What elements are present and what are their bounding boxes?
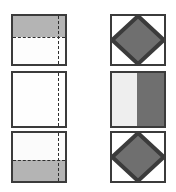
- diamond-shape: [110, 131, 166, 183]
- vertical-fold-line: [58, 16, 59, 64]
- right-half: [137, 71, 166, 128]
- option-2-vertical-split-panel[interactable]: [110, 71, 166, 128]
- fold-step-2-panel: [11, 71, 67, 128]
- option-1-diamond-panel[interactable]: [110, 14, 166, 66]
- folding-diagram-figure: [0, 0, 176, 192]
- vertical-fold-line: [58, 133, 59, 181]
- left-half: [110, 71, 137, 128]
- option-3-diamond-panel[interactable]: [110, 131, 166, 183]
- diamond-shape: [110, 14, 166, 66]
- fold-step-1-panel: [11, 14, 67, 66]
- fold-step-3-panel: [11, 131, 67, 183]
- vertical-fold-line: [58, 73, 59, 126]
